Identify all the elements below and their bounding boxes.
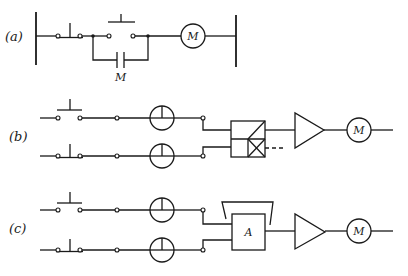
switch-no — [56, 192, 82, 212]
terminal — [115, 154, 119, 158]
motor-icon: M — [181, 24, 205, 48]
panel-c: (c) — [9, 192, 393, 262]
terminal — [115, 116, 119, 120]
terminal — [201, 208, 205, 212]
motor-icon: M — [347, 219, 371, 243]
terminal — [115, 208, 119, 212]
sensor-icon — [150, 238, 174, 262]
panel-b: (b) — [9, 99, 393, 168]
terminal — [201, 154, 205, 158]
terminal — [115, 248, 119, 252]
wire — [203, 120, 231, 130]
start-switch-no — [107, 14, 135, 38]
panel-b-label: (b) — [9, 129, 27, 144]
amplifier-icon — [295, 214, 325, 249]
sensor-icon — [150, 198, 174, 222]
motor-icon: M — [347, 118, 371, 142]
terminal — [201, 116, 205, 120]
holding-contact-M: M — [93, 36, 148, 84]
switch-nc — [56, 239, 83, 252]
terminal — [201, 248, 205, 252]
block-A: A — [232, 214, 265, 250]
switch-nc — [56, 144, 83, 158]
block-A-label: A — [244, 226, 253, 239]
switch-no — [56, 99, 82, 120]
motor-label: M — [352, 124, 365, 137]
sensor-icon — [150, 106, 174, 130]
logic-gate-block — [231, 121, 265, 157]
panel-c-label: (c) — [9, 221, 26, 236]
control-circuit-diagram: (a) M — [0, 0, 408, 276]
stop-switch-nc — [56, 23, 83, 38]
wire — [203, 147, 231, 154]
motor-label: M — [352, 225, 365, 238]
panel-a: (a) M — [5, 12, 236, 84]
sensor-icon — [150, 144, 174, 168]
amplifier-icon — [295, 113, 324, 148]
motor-label: M — [186, 30, 199, 43]
holding-contact-label: M — [114, 71, 127, 84]
panel-a-label: (a) — [5, 29, 23, 44]
wire — [203, 212, 232, 224]
wire — [203, 240, 232, 248]
